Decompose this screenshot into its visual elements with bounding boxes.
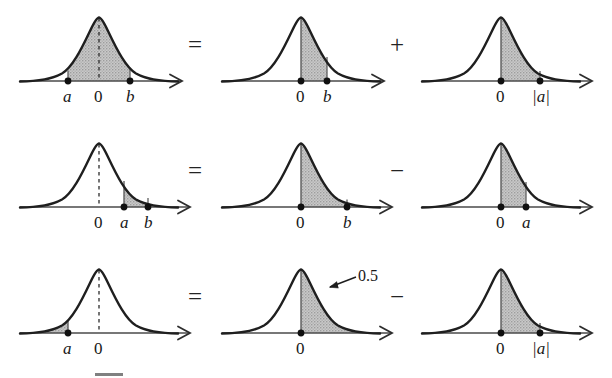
identity-row-3: a 0 = 0.5 0 − <box>0 252 612 378</box>
tick-dot <box>65 330 72 337</box>
tick-label: 0 <box>94 340 103 357</box>
tick-label: a <box>63 88 72 105</box>
tick-label: 0 <box>496 88 505 105</box>
tick-label: 0 <box>94 88 103 105</box>
curve-panel-r1p2: 0 b <box>212 0 412 126</box>
curve-panel-r3p3: 0 |a| <box>412 252 612 378</box>
identity-row-2: 0 a b = 0 b − <box>0 126 612 252</box>
tick-label: b <box>323 88 332 105</box>
operator-equals: = <box>180 284 210 309</box>
tick-label: b <box>126 88 135 105</box>
tick-dot <box>498 204 505 211</box>
tick-label: b <box>343 214 352 231</box>
identity-row-1: a 0 b = 0 b + <box>0 0 612 126</box>
curve-panel-r2p1: 0 a b <box>10 126 210 252</box>
tick-dot <box>145 204 152 211</box>
tick-label: 0 <box>296 214 305 231</box>
curve-panel-r1p1: a 0 b <box>10 0 210 126</box>
curve-panel-r2p3: 0 a <box>412 126 612 252</box>
tick-label: 0 <box>296 340 305 357</box>
tick-label: |a| <box>532 340 550 357</box>
tick-dot <box>537 78 544 85</box>
tick-dot <box>498 78 505 85</box>
tick-label: a <box>63 340 72 357</box>
tick-label: b <box>144 214 153 231</box>
tick-dot <box>298 78 305 85</box>
curve-panel-r3p1: a 0 <box>10 252 210 378</box>
tick-dot <box>298 204 305 211</box>
tick-label: a <box>120 214 129 231</box>
curve-panel-r2p2: 0 b <box>212 126 412 252</box>
normal-curve-svg <box>10 0 210 126</box>
operator-equals: = <box>180 32 210 57</box>
tick-dot <box>324 78 331 85</box>
tick-dot <box>127 78 134 85</box>
tick-label: 0 <box>496 340 505 357</box>
figure-canvas: a 0 b = 0 b + <box>0 0 612 378</box>
tick-label: |a| <box>532 88 550 105</box>
tick-dot <box>523 204 530 211</box>
annotation-arrowhead <box>330 282 339 289</box>
tick-label: a <box>522 214 531 231</box>
operator-minus: − <box>382 158 412 183</box>
tick-dot <box>121 204 128 211</box>
cropped-caption-fragment <box>95 373 123 376</box>
curve-panel-r3p2: 0.5 0 <box>212 252 412 378</box>
tick-label: 0 <box>496 214 505 231</box>
tick-label: 0 <box>94 214 103 231</box>
tick-dot <box>298 330 305 337</box>
curve-panel-r1p3: 0 |a| <box>412 0 612 126</box>
operator-plus: + <box>382 32 412 57</box>
tick-dot <box>344 204 351 211</box>
tick-dot <box>498 330 505 337</box>
operator-equals: = <box>180 158 210 183</box>
operator-minus: − <box>382 284 412 309</box>
tick-dot <box>65 78 72 85</box>
tick-dot <box>537 330 544 337</box>
tick-label: 0 <box>296 88 305 105</box>
annotation-label: 0.5 <box>358 268 378 284</box>
